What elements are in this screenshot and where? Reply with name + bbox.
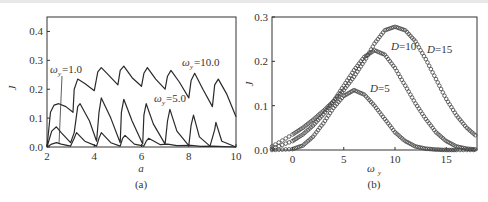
- x-tick-label: 4: [92, 150, 98, 162]
- line-series: [47, 98, 236, 147]
- x-tick-label: 6: [139, 150, 145, 162]
- svg-text:D: D: [390, 40, 399, 52]
- svg-text:D: D: [426, 43, 435, 55]
- svg-text:y: y: [377, 169, 382, 177]
- x-tick-label: 15: [441, 153, 453, 165]
- y-tick-label: 0.0: [29, 141, 43, 153]
- svg-text:=1.0: =1.0: [62, 63, 82, 75]
- panel-b: 0.00.10.20.3 051015 J ω y (b) D =5 D =10…: [243, 11, 477, 191]
- y-tick-label: 0.2: [29, 83, 43, 95]
- svg-text:ω: ω: [367, 162, 375, 174]
- annotation-wy-1: ω y =1.0: [50, 63, 82, 144]
- svg-text:=10: =10: [399, 40, 417, 52]
- panel-a-caption: (a): [135, 178, 148, 191]
- x-tick-label: 10: [231, 150, 243, 162]
- x-tick-label: 5: [341, 153, 347, 165]
- x-tick-label: 2: [44, 150, 50, 162]
- svg-text:=5.0: =5.0: [166, 92, 186, 104]
- y-tick-label: 0.1: [29, 112, 43, 124]
- annotation-d-5: D =5: [369, 82, 390, 94]
- annotation-wy-5: ω y =5.0: [154, 92, 186, 107]
- panel-a-y-label: J: [6, 84, 18, 90]
- scatter-marker: [287, 135, 291, 139]
- x-tick-label: 10: [390, 153, 402, 165]
- y-tick-label: 0.3: [29, 54, 43, 66]
- panel-b-y-label: J: [243, 80, 255, 86]
- y-tick-label: 0.2: [254, 55, 268, 67]
- svg-text:ω: ω: [50, 63, 58, 75]
- annotation-wy-10: ω y =10.0: [182, 56, 220, 71]
- panel-a-x-label: a: [138, 162, 144, 174]
- x-tick-label: 8: [186, 150, 192, 162]
- y-tick-label: 0.0: [254, 144, 268, 156]
- scatter-marker: [281, 139, 285, 143]
- panel-a: 0.00.10.20.30.4 246810 J a (a) ω y =1.0 …: [6, 17, 242, 191]
- annotation-d-15: D =15: [426, 43, 453, 55]
- scatter-marker: [277, 141, 281, 145]
- scatter-marker: [284, 137, 288, 141]
- svg-text:ω: ω: [154, 92, 162, 104]
- panel-a-series: [47, 66, 236, 147]
- figure: 0.00.10.20.30.4 246810 J a (a) ω y =1.0 …: [0, 0, 488, 202]
- svg-text:=15: =15: [435, 43, 453, 55]
- annotation-d-10: D =10: [390, 40, 417, 52]
- y-tick-label: 0.1: [254, 100, 268, 112]
- y-tick-label: 0.3: [254, 11, 268, 23]
- panel-b-x-label: ω y: [367, 162, 382, 177]
- svg-text:=5: =5: [378, 82, 390, 94]
- y-tick-label: 0.4: [29, 25, 43, 37]
- x-tick-label: 0: [290, 153, 296, 165]
- svg-text:ω: ω: [182, 56, 190, 68]
- svg-text:=10.0: =10.0: [194, 56, 220, 68]
- panel-b-caption: (b): [368, 178, 381, 191]
- svg-text:D: D: [369, 82, 378, 94]
